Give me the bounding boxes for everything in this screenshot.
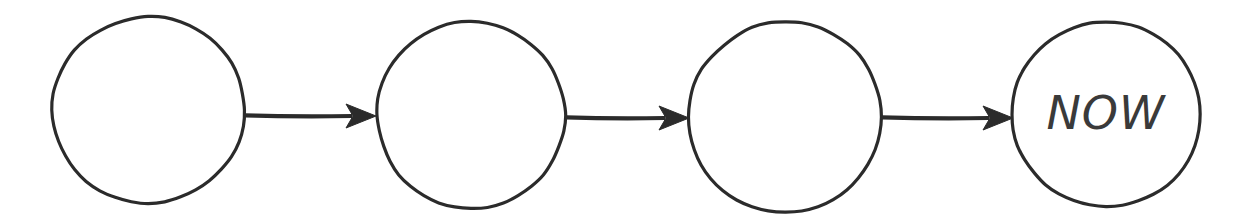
circle-outline xyxy=(52,16,245,203)
circle-outline xyxy=(377,21,566,208)
node-group: NOW xyxy=(52,16,1200,212)
arrow-shaft xyxy=(882,117,989,118)
node-circle-4-now[interactable]: NOW xyxy=(1012,22,1200,206)
diagram-canvas: NOW xyxy=(0,0,1246,224)
arrow-group xyxy=(245,104,1013,130)
node-circle-1[interactable] xyxy=(52,16,245,203)
arrow-connector-2 xyxy=(566,106,689,130)
arrow-connector-1 xyxy=(245,104,376,128)
circle-outline xyxy=(688,22,881,212)
diagram-svg: NOW xyxy=(0,0,1246,224)
node-circle-3[interactable] xyxy=(688,22,881,212)
node-label-now: NOW xyxy=(1046,86,1166,140)
arrow-connector-3 xyxy=(882,106,1013,130)
node-circle-2[interactable] xyxy=(377,21,566,208)
arrow-shaft xyxy=(245,115,352,116)
arrow-shaft xyxy=(566,117,665,118)
